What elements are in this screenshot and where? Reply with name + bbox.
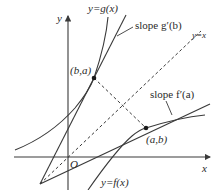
y-axis-label: y bbox=[56, 12, 62, 24]
f-curve-label: y=f(x) bbox=[100, 176, 129, 189]
slope-f-label: slope f′(a) bbox=[150, 88, 195, 101]
symmetry-connector bbox=[94, 78, 146, 128]
g-curve-label: y=g(x) bbox=[87, 2, 118, 15]
slope-g-label: slope g′(b) bbox=[135, 19, 182, 32]
slope-f-leader bbox=[166, 101, 172, 115]
identity-line bbox=[40, 31, 201, 184]
g-curve bbox=[15, 17, 108, 150]
identity-line-label: y=x bbox=[191, 30, 206, 40]
point-ab-label: (a,b) bbox=[146, 133, 167, 146]
point-ba bbox=[92, 76, 97, 81]
x-axis-label: x bbox=[201, 162, 207, 174]
point-ba-label: (b,a) bbox=[70, 64, 91, 77]
point-ab bbox=[144, 126, 149, 131]
tangent-g bbox=[40, 15, 126, 184]
origin-label: O bbox=[70, 158, 78, 170]
tangent-f bbox=[40, 104, 210, 184]
inverse-function-diagram: y x O y=g(x) y=f(x) y=x (b,a) (a,b) slop… bbox=[0, 0, 212, 190]
